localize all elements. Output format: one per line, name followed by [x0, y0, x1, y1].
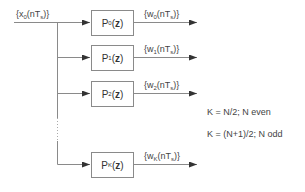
signal-wires	[0, 0, 305, 192]
output-signal-label-w1: {w1(nTs)}	[144, 44, 179, 55]
filter-box-p0: P0(z)	[91, 10, 134, 36]
output-signal-label-wk: {wK(nTs)}	[144, 151, 180, 162]
output-signal-label-w2: {w2(nTs)}	[144, 80, 179, 91]
filter-box-p2: P2(z)	[91, 81, 134, 107]
note-n-odd: K = (N+1)/2; N odd	[207, 129, 283, 139]
filter-box-pk: PK(z)	[91, 152, 134, 178]
input-signal-label: {x0(nTs)}	[16, 9, 49, 20]
note-n-even: K = N/2; N even	[207, 107, 271, 117]
filter-box-p1: P1(z)	[91, 45, 134, 71]
output-signal-label-w0: {w0(nTs)}	[144, 9, 179, 20]
